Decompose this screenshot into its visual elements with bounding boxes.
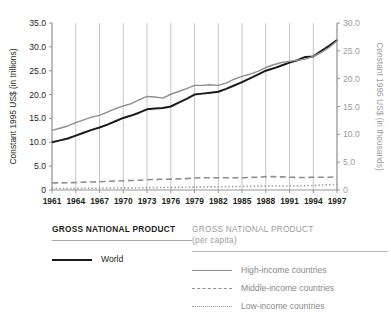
legend-item[interactable]: High-income countries (192, 261, 388, 279)
gnp-chart-figure: 05.010.015.020.025.030.035.005.010.015.0… (0, 0, 391, 335)
axis-left-tick-label: 25.0 (29, 66, 46, 76)
axis-right-tick-label: 30.0 (343, 18, 360, 28)
axis-left-title: Constant 1995 US$ (in trillions) (8, 48, 18, 164)
legend-column-gnp-per-capita: GROSS NATIONAL PRODUCT (per capita) High… (192, 224, 388, 315)
axis-left-tick-label: 0 (41, 185, 46, 195)
legend-title-gnp-per-capita-main: GROSS NATIONAL PRODUCT (192, 224, 314, 234)
axis-x-tick-label: 1961 (43, 196, 62, 206)
axis-x-tick-label: 1967 (90, 196, 109, 206)
axis-x-tick-label: 1982 (209, 196, 228, 206)
legend-title-gnp: GROSS NATIONAL PRODUCT (52, 224, 192, 235)
axis-x-tick-label: 1976 (161, 196, 180, 206)
axis-right-tick-label: 25.0 (343, 46, 360, 56)
axis-left-tick-label: 15.0 (29, 113, 46, 123)
legend-title-gnp-per-capita: GROSS NATIONAL PRODUCT (per capita) (192, 224, 388, 246)
axis-left-tick-label: 20.0 (29, 90, 46, 100)
axis-right-tick-label: 0 (343, 185, 348, 195)
legend-item-label: World (101, 254, 123, 264)
axis-x-tick-label: 1994 (304, 196, 323, 206)
legend-line-swatch-icon (192, 265, 232, 275)
legend-line-swatch-icon (192, 301, 232, 311)
axis-right-tick-label: 5.0 (343, 157, 355, 167)
axis-x-tick-label: 1991 (280, 196, 299, 206)
axis-x-tick-label: 1997 (328, 196, 347, 206)
legend-line-swatch-icon (52, 254, 92, 264)
axis-x-tick-label: 1979 (185, 196, 204, 206)
legend-line-swatch-icon (192, 283, 232, 293)
axis-x-tick-label: 1988 (256, 196, 275, 206)
axis-left-tick-label: 10.0 (29, 137, 46, 147)
legend-divider-right (192, 251, 388, 252)
axis-x-tick-label: 1964 (66, 196, 85, 206)
legend-item-label: High-income countries (241, 265, 327, 275)
legend-items-right: High-income countriesMiddle-income count… (192, 261, 388, 315)
axis-right-tick-label: 15.0 (343, 102, 360, 112)
axis-left-tick-label: 5.0 (34, 161, 46, 171)
legend-items-left: World (52, 250, 192, 268)
axis-x-tick-label: 1973 (138, 196, 157, 206)
axis-right-title: Constant 1995 US$ (in thousands) (375, 42, 385, 171)
line-chart-svg: 05.010.015.020.025.030.035.005.010.015.0… (0, 0, 391, 222)
axis-left-tick-label: 30.0 (29, 42, 46, 52)
axis-x-tick-label: 1970 (114, 196, 133, 206)
axis-x-tick-label: 1985 (233, 196, 252, 206)
legend-item-label: Middle-income countries (241, 283, 334, 293)
legend-item[interactable]: World (52, 250, 192, 268)
chart-legend: GROSS NATIONAL PRODUCT World GROSS NATIO… (0, 224, 391, 335)
axis-right-tick-label: 20.0 (343, 74, 360, 84)
legend-item[interactable]: Middle-income countries (192, 279, 388, 297)
legend-divider-left (52, 240, 192, 241)
axis-right-tick-label: 10.0 (343, 129, 360, 139)
legend-title-gnp-per-capita-sub: (per capita) (192, 235, 388, 246)
legend-item-label: Low-income countries (241, 301, 325, 311)
chart-plot-area: 05.010.015.020.025.030.035.005.010.015.0… (0, 0, 391, 222)
legend-item[interactable]: Low-income countries (192, 297, 388, 315)
legend-column-gnp: GROSS NATIONAL PRODUCT World (52, 224, 192, 268)
axis-left-tick-label: 35.0 (29, 18, 46, 28)
